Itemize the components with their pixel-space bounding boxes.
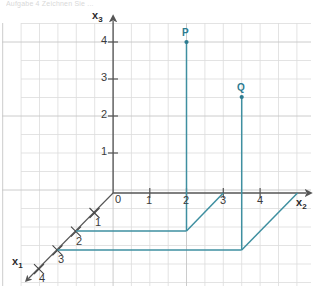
tick-x2-4: 4 xyxy=(257,194,263,206)
axis-x2-line xyxy=(113,188,306,198)
point-p-label: P xyxy=(182,27,189,38)
tick-x3-2: 2 xyxy=(101,108,107,120)
tick-x1-3: 3 xyxy=(58,253,64,265)
tick-x2-3: 3 xyxy=(220,194,226,206)
tick-x2-2: 2 xyxy=(183,194,189,206)
tick-x3-4: 4 xyxy=(101,34,107,46)
tick-x1-1: 1 xyxy=(95,216,101,228)
coordinate-system-svg xyxy=(0,0,314,292)
coordinate-system-figure: Aufgabe 4 Zeichnen Sie ... xyxy=(0,0,314,292)
tick-x3-3: 3 xyxy=(101,71,107,83)
axis-label-x2: x2 xyxy=(296,196,307,211)
grid-lines-major xyxy=(2,23,311,286)
point-q-label: Q xyxy=(237,82,245,93)
grid-lines xyxy=(21,23,311,286)
tick-x2-1: 1 xyxy=(146,194,152,206)
axis-x1-line xyxy=(29,193,113,278)
tick-x1-4: 4 xyxy=(39,272,45,284)
point-q-dot xyxy=(240,95,244,99)
origin-label: 0 xyxy=(115,193,121,205)
point-p-dot xyxy=(184,40,188,44)
axis-label-x2-sub: 2 xyxy=(302,202,306,211)
axis-label-x1: x1 xyxy=(12,255,23,270)
tick-x1-2: 2 xyxy=(76,235,82,247)
axis-x3-line xyxy=(108,21,118,193)
axis-label-x1-sub: 1 xyxy=(18,261,22,270)
axis-label-x3-sub: 3 xyxy=(98,15,102,24)
axis-label-x3: x3 xyxy=(92,9,103,24)
tick-x3-1: 1 xyxy=(101,145,107,157)
